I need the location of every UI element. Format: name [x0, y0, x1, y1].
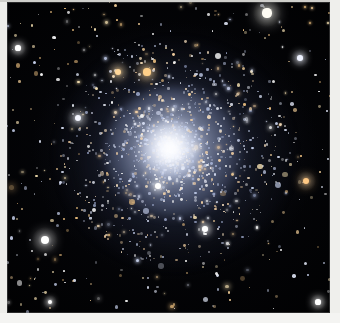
frame-inner-shade	[7, 2, 330, 313]
frame-edge-bottom	[0, 313, 340, 323]
frame-edge-left	[0, 0, 7, 323]
frame-edge-right	[330, 0, 340, 323]
screenshot-root: Astronomical photograph of a globular st…	[0, 0, 340, 323]
